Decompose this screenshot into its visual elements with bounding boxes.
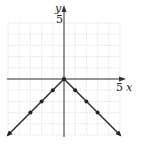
data-point — [73, 88, 77, 92]
data-point — [28, 111, 32, 115]
data-point — [51, 88, 55, 92]
y-axis-arrow-icon — [62, 5, 67, 12]
data-point — [62, 77, 66, 81]
y-tick-label: 5 — [56, 13, 63, 26]
x-axis-label: x — [126, 81, 133, 94]
graph: y 5 5 x — [0, 0, 142, 146]
data-point — [40, 99, 44, 103]
data-point — [96, 111, 100, 115]
data-point — [84, 99, 88, 103]
x-tick-label: 5 — [116, 81, 123, 94]
